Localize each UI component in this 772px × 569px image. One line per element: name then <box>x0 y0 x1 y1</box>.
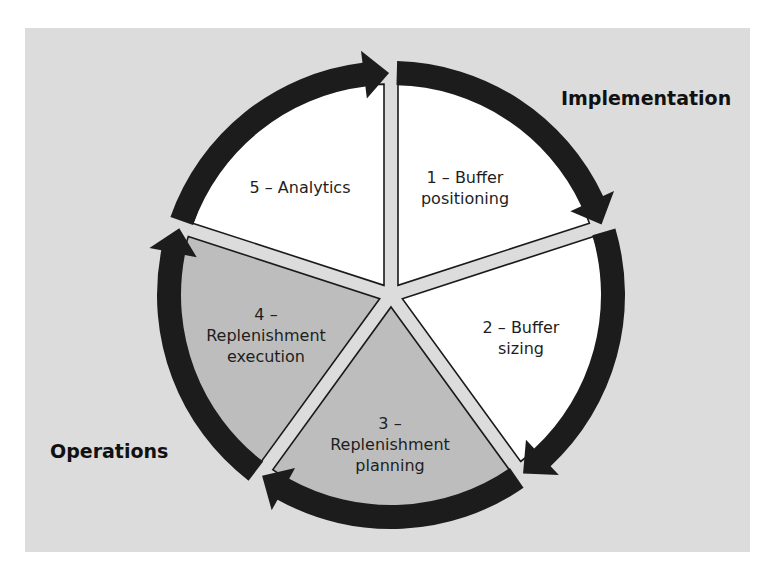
step-4-subtitle: execution <box>191 346 341 367</box>
step-2-title: 2 – Buffer <box>466 317 576 338</box>
step-1-subtitle: positioning <box>410 188 520 209</box>
step-1-title: 1 – Buffer <box>410 167 520 188</box>
step-3-title: Replenishment <box>310 434 470 455</box>
step-2-label: 2 – Buffer sizing <box>466 317 576 359</box>
step-5-title: 5 – Analytics <box>235 177 365 198</box>
step-1-label: 1 – Buffer positioning <box>410 167 520 209</box>
step-4-title: Replenishment <box>191 325 341 346</box>
phase-label-implementation: Implementation <box>561 87 731 109</box>
step-3-label: 3 – Replenishment planning <box>310 413 470 476</box>
ddmrp-cycle-diagram <box>0 0 772 569</box>
step-5-label: 5 – Analytics <box>235 177 365 198</box>
step-3-number: 3 – <box>310 413 470 434</box>
step-4-number: 4 – <box>191 304 341 325</box>
step-4-label: 4 – Replenishment execution <box>191 304 341 367</box>
phase-label-operations: Operations <box>50 440 168 462</box>
step-3-subtitle: planning <box>310 455 470 476</box>
step-2-subtitle: sizing <box>466 338 576 359</box>
